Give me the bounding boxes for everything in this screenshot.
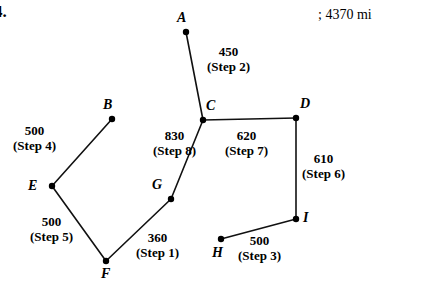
graph-node-dot <box>49 183 55 189</box>
graph-node-dot <box>109 116 115 122</box>
edge-weight: 620 <box>225 128 268 143</box>
edge-weight: 830 <box>153 128 196 143</box>
edge-step: (Step 4) <box>13 138 56 153</box>
node-label-h: H <box>212 245 223 260</box>
node-label-a: A <box>177 10 186 25</box>
node-label-i: I <box>303 210 308 225</box>
edge-step: (Step 7) <box>225 143 268 158</box>
node-label-b: B <box>103 97 112 112</box>
graph-edge <box>203 118 296 120</box>
graph-node-dot <box>200 117 206 123</box>
edge-weight: 500 <box>238 233 281 248</box>
edge-label-b-e: 500(Step 4) <box>13 123 56 153</box>
edge-step: (Step 6) <box>302 166 345 181</box>
node-label-c: C <box>206 98 215 113</box>
graph-edge <box>52 119 112 186</box>
graph-node-dot <box>168 196 174 202</box>
edge-label-f-g: 360(Step 1) <box>136 230 179 260</box>
edge-label-i-h: 500(Step 3) <box>238 233 281 263</box>
edge-label-e-f: 500(Step 5) <box>30 214 73 244</box>
edge-label-a-c: 450(Step 2) <box>207 44 250 74</box>
graph-node-dot <box>293 216 299 222</box>
graph-edge <box>186 32 203 120</box>
edge-weight: 500 <box>30 214 73 229</box>
node-label-g: G <box>152 177 162 192</box>
graph-node-dot <box>218 236 224 242</box>
graph-node-dot <box>293 115 299 121</box>
edge-weight: 610 <box>302 151 345 166</box>
graph-node-dot <box>103 258 109 264</box>
edge-step: (Step 8) <box>153 143 196 158</box>
edge-weight: 500 <box>13 123 56 138</box>
edge-label-g-c: 830(Step 8) <box>153 128 196 158</box>
edge-label-d-i: 610(Step 6) <box>302 151 345 181</box>
edge-step: (Step 3) <box>238 248 281 263</box>
edge-weight: 450 <box>207 44 250 59</box>
node-label-f: F <box>101 266 110 281</box>
edge-step: (Step 2) <box>207 59 250 74</box>
edge-label-c-d: 620(Step 7) <box>225 128 268 158</box>
edge-step: (Step 1) <box>136 245 179 260</box>
graph-node-dot <box>183 29 189 35</box>
node-label-e: E <box>28 178 37 193</box>
edge-step: (Step 5) <box>30 229 73 244</box>
edge-weight: 360 <box>136 230 179 245</box>
node-label-d: D <box>300 96 310 111</box>
